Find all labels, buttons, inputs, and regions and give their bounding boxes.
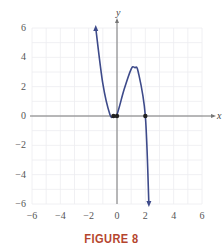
figure: xy−6−4−20246−6−4−20246 FIGURE 8 [0, 0, 223, 248]
x-axis-label: x [216, 110, 222, 121]
y-axis-label: y [115, 7, 121, 18]
y-tick-label: 0 [21, 110, 26, 121]
zero-point [143, 114, 147, 118]
x-tick-label: −2 [83, 210, 94, 221]
y-tick-label: −2 [15, 139, 26, 150]
x-axis-arrow-icon [211, 114, 216, 118]
x-tick-label: 6 [200, 210, 205, 221]
x-tick-label: 2 [143, 210, 148, 221]
x-tick-label: −4 [55, 210, 66, 221]
figure-caption: FIGURE 8 [17, 231, 207, 246]
y-tick-label: 4 [21, 51, 26, 62]
y-tick-label: −6 [15, 198, 26, 209]
y-axis-arrow-icon [115, 18, 119, 23]
zero-point [115, 114, 119, 118]
y-tick-label: 2 [21, 81, 26, 92]
x-tick-label: 4 [171, 210, 176, 221]
function-graph: xy−6−4−20246−6−4−20246 [0, 0, 223, 230]
y-tick-label: 6 [21, 22, 26, 33]
x-tick-label: 0 [115, 210, 120, 221]
x-tick-label: −6 [27, 210, 38, 221]
y-tick-label: −4 [15, 169, 26, 180]
